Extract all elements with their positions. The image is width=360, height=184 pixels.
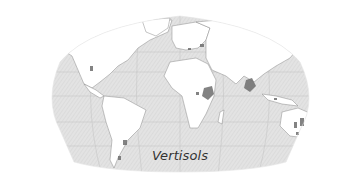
new-zealand xyxy=(322,134,328,148)
map-caption: Vertisols xyxy=(0,148,360,163)
